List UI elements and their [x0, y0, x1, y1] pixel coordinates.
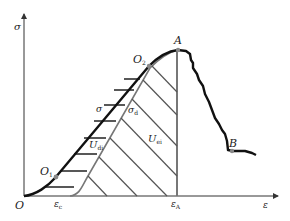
point-a-label: A	[174, 35, 182, 46]
point-o1-letter: O	[40, 165, 49, 178]
sigma-d-label: σd	[128, 106, 138, 116]
eps-a-label: εA	[171, 200, 180, 210]
point-o1	[54, 175, 59, 180]
sigma-d-sub: d	[134, 109, 138, 116]
x-axis-label: ε	[263, 201, 268, 210]
u-di-label: Udi	[89, 140, 103, 151]
point-o2	[147, 64, 151, 68]
eps-a-sub: A	[176, 203, 180, 210]
point-b-label: B	[229, 138, 237, 149]
u-di-sub: di	[97, 144, 103, 151]
eps-c-sub: c	[59, 203, 62, 210]
point-a	[176, 48, 180, 52]
sigma-d-line	[70, 50, 177, 196]
u-ei-sub: ei	[156, 138, 161, 145]
point-o1-sub: 1	[49, 171, 53, 178]
diagram-canvas	[0, 0, 290, 221]
origin-label: O	[15, 200, 24, 211]
eps-c-label: εc	[54, 200, 62, 210]
point-o2-sub: 2	[142, 59, 146, 66]
point-o2-letter: O	[133, 53, 142, 66]
sigma-curve-label: σ	[96, 105, 102, 114]
y-axis-label: σ	[14, 22, 21, 32]
point-o2-label: O2	[133, 54, 146, 66]
u-ei-label: Uei	[148, 134, 162, 145]
sigma-curve	[24, 50, 256, 196]
point-o1-label: O1	[40, 166, 53, 178]
